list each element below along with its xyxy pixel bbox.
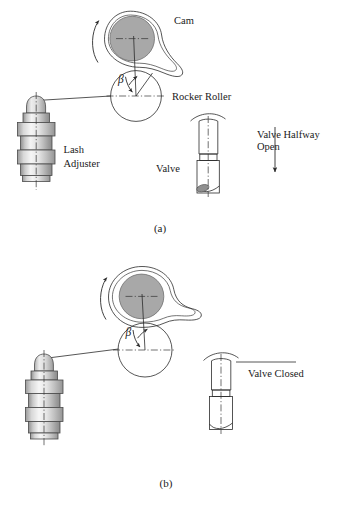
lash-adjuster	[18, 92, 56, 190]
panel-b: β	[26, 267, 305, 491]
rocker-arm-link	[37, 96, 111, 101]
beta-angle-label-b: β	[125, 326, 132, 339]
rocker-roller-label: Rocker Roller	[172, 91, 232, 102]
panel-a: β	[18, 11, 321, 235]
beta-contact-line	[136, 73, 153, 96]
cam-valvetrain-figure: β	[0, 0, 337, 505]
panel-b-caption: (b)	[160, 477, 173, 490]
cam-label: Cam	[174, 15, 194, 26]
cam-rotation-arrow-icon	[93, 21, 99, 63]
cam-assembly	[93, 11, 183, 76]
figure-root: β	[0, 0, 337, 505]
valve-state-label-a-line1: Valve Halfway	[257, 129, 320, 140]
cam-assembly-b	[101, 267, 202, 328]
cam-rotation-arrow-icon-b	[101, 278, 107, 320]
valve-upper-collar-a	[199, 119, 218, 154]
valve-state-label-b: Valve Closed	[248, 368, 304, 379]
beta-angle-arrow-upper-b	[138, 329, 148, 338]
valve-assembly-a	[191, 114, 226, 197]
panel-a-caption: (a)	[154, 222, 167, 235]
lash-adjuster-label-line1: Lash	[64, 144, 85, 155]
valve-state-label-a-line2: Open	[257, 141, 280, 152]
valve-assembly-b	[204, 353, 239, 434]
rocker-arm-link-b	[44, 349, 119, 359]
lash-adjuster-b	[26, 350, 64, 447]
beta-angle-arrow-upper	[129, 76, 137, 85]
beta-angle-label: β	[117, 73, 124, 86]
valve-label-a: Valve	[156, 163, 180, 174]
beta-angle-arc-b	[133, 330, 140, 347]
lash-adjuster-label-line2: Adjuster	[64, 158, 101, 169]
